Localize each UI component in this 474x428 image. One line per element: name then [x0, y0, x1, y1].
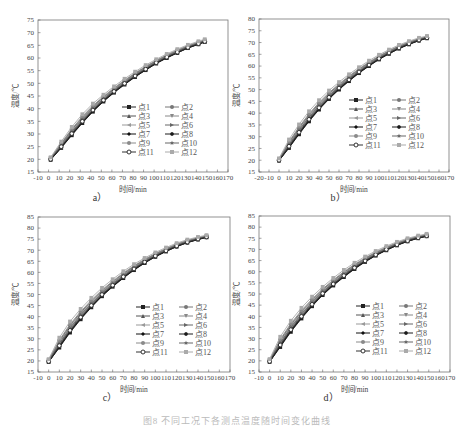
legend-label: 点9	[365, 132, 377, 141]
x-tick-label: 150	[202, 174, 213, 182]
legend-label: 点11	[372, 347, 388, 356]
legend-item: 点9	[136, 339, 164, 348]
x-tick-label: 0	[47, 374, 51, 382]
series-line-点9	[279, 37, 427, 159]
legend-item: 点5	[356, 320, 384, 329]
legend-item: 点4	[165, 112, 193, 121]
legend-label: 点5	[138, 121, 150, 130]
legend-label: 点9	[138, 139, 150, 148]
legend-label: 点10	[408, 132, 424, 141]
legend-label: 点6	[195, 321, 207, 330]
legend-label: 点11	[152, 348, 168, 357]
y-tick-label: 75	[248, 235, 256, 243]
legend-item: 点9	[356, 338, 384, 347]
x-tick-label: 20	[67, 374, 75, 382]
chart-panel-a: 15202530354045505560657075-1001020304050…	[10, 16, 234, 194]
y-tick-label: 40	[248, 109, 256, 117]
y-tick-label: 20	[27, 156, 35, 164]
legend-item: 点5	[136, 321, 164, 330]
legend-label: 点7	[152, 330, 164, 339]
legend-item: 点2	[392, 96, 420, 105]
legend-label: 点8	[415, 329, 427, 338]
series-markers	[277, 37, 429, 163]
y-tick-label: 20	[248, 357, 256, 365]
y-tick-label: 50	[27, 80, 35, 88]
y-tick-label: 70	[248, 39, 256, 47]
series-line-点2	[270, 236, 427, 362]
legend-item: 点11	[356, 347, 388, 356]
legend-item: 点2	[179, 303, 207, 312]
legend-item: 点1	[349, 96, 377, 105]
series-line-点5	[49, 236, 207, 360]
x-tick-label: 60	[109, 374, 117, 382]
x-tick-label: 130	[181, 174, 192, 182]
legend-item: 点3	[122, 112, 150, 121]
legend-label: 点12	[181, 148, 197, 157]
legend-label: 点11	[138, 148, 154, 157]
y-tick-label: 55	[27, 67, 35, 75]
legend: 点1点2点3点4点5点6点7点8点9点10点11点12	[136, 303, 211, 357]
y-tick-label: 60	[27, 54, 35, 62]
legend-item: 点3	[349, 105, 377, 114]
series-markers	[277, 35, 429, 161]
x-tick-label: 150	[424, 374, 435, 382]
legend-item: 点10	[179, 339, 211, 348]
x-tick-label: 100	[150, 374, 161, 382]
series-line-点3	[279, 38, 427, 160]
y-axis: 1520253035404550556065707580	[248, 15, 262, 176]
x-tick-label: 0	[277, 174, 281, 182]
legend-item: 点2	[399, 302, 427, 311]
x-tick-label: 0	[268, 374, 272, 382]
x-tick-label: 50	[319, 374, 327, 382]
x-tick-label: 80	[131, 374, 139, 382]
x-tick-label: 40	[88, 374, 96, 382]
series-line-点10	[279, 37, 427, 159]
x-tick-label: 140	[191, 174, 202, 182]
series-line-点7	[270, 236, 427, 362]
x-tick-label: 30	[306, 174, 314, 182]
legend-label: 点3	[152, 312, 164, 321]
x-tick-label: 70	[346, 174, 354, 182]
x-tick-label: -10	[254, 374, 264, 382]
x-tick-label: 80	[356, 174, 364, 182]
y-tick-label: 45	[248, 301, 256, 309]
legend-item: 点12	[179, 348, 211, 357]
legend-label: 点2	[195, 303, 207, 312]
x-tick-label: 40	[309, 374, 317, 382]
x-tick-label: 0	[47, 174, 51, 182]
legend-item: 点5	[349, 114, 377, 123]
x-tick-label: 20	[287, 374, 295, 382]
x-tick-label: 120	[171, 374, 182, 382]
x-tick-label: 30	[298, 374, 306, 382]
series-markers	[47, 235, 209, 363]
series-markers	[268, 234, 429, 363]
y-tick-label: 25	[27, 346, 35, 354]
x-tick-label: 60	[330, 374, 338, 382]
series-line-点12	[279, 36, 427, 158]
x-tick-label: -10	[33, 374, 43, 382]
x-tick-label: 10	[277, 374, 285, 382]
legend-item: 点6	[399, 320, 427, 329]
legend-item: 点6	[179, 321, 207, 330]
legend-label: 点2	[408, 96, 420, 105]
series-markers	[277, 35, 429, 161]
series-markers	[277, 36, 429, 162]
x-tick-label: 110	[160, 174, 171, 182]
series-line-点12	[49, 235, 207, 359]
x-tick-label: 80	[130, 174, 138, 182]
legend-item: 点7	[349, 123, 377, 132]
y-tick-label: 35	[27, 118, 35, 126]
panel-label-d: d）	[311, 389, 351, 404]
y-tick-label: 65	[27, 258, 35, 266]
legend-label: 点11	[365, 141, 381, 150]
series-line-点5	[279, 37, 427, 159]
series-line-点11	[279, 38, 427, 160]
y-axis-title: 温度/℃	[231, 83, 241, 107]
x-tick-label: 60	[336, 174, 344, 182]
y-tick-label: 60	[248, 268, 256, 276]
legend-item: 点1	[122, 103, 150, 112]
series-group	[46, 233, 208, 364]
y-tick-label: 20	[27, 357, 35, 365]
x-tick-label: 160	[214, 374, 225, 382]
y-tick-label: 45	[27, 302, 35, 310]
